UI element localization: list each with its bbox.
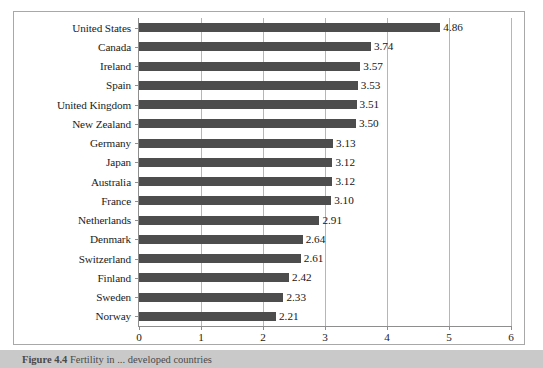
bar[interactable]: [139, 81, 358, 90]
bar[interactable]: [139, 312, 276, 321]
bar[interactable]: [139, 177, 332, 186]
bar-value-label: 3.51: [357, 99, 380, 110]
bar-value-label: 3.10: [331, 195, 354, 206]
category-label: United Kingdom: [18, 100, 131, 110]
bar[interactable]: [139, 23, 440, 32]
bar[interactable]: [139, 100, 357, 109]
bar-row[interactable]: 3.50: [139, 119, 511, 128]
category-label: Norway: [18, 311, 131, 321]
category-label: Australia: [18, 177, 131, 187]
bar-row[interactable]: 3.51: [139, 100, 511, 109]
bar[interactable]: [139, 158, 332, 167]
category-label: Canada: [18, 42, 131, 52]
x-tick-label: 0: [136, 331, 142, 343]
bar-row[interactable]: 3.10: [139, 196, 511, 205]
plot-area: 01234564.863.743.573.533.513.503.133.123…: [138, 18, 511, 327]
category-label: France: [18, 196, 131, 206]
x-tickmark: [325, 326, 326, 330]
category-label: Germany: [18, 138, 131, 148]
x-tick-label: 5: [446, 331, 452, 343]
category-label: Netherlands: [18, 215, 131, 225]
bar[interactable]: [139, 119, 356, 128]
x-tick-label: 6: [508, 331, 514, 343]
bar-chart: United StatesCanadaIrelandSpainUnited Ki…: [14, 12, 526, 346]
category-label: Spain: [18, 80, 131, 90]
bar-value-label: 3.12: [332, 157, 355, 168]
bar[interactable]: [139, 293, 283, 302]
category-axis-labels: United StatesCanadaIrelandSpainUnited Ki…: [18, 18, 131, 330]
bar-row[interactable]: 4.86: [139, 23, 511, 32]
bar-row[interactable]: 3.74: [139, 42, 511, 51]
bar-value-label: 4.86: [440, 22, 463, 33]
caption-body: Fertility in ... developed countries: [70, 354, 212, 365]
bar[interactable]: [139, 196, 331, 205]
x-tickmark: [201, 326, 202, 330]
x-tick-label: 1: [198, 331, 204, 343]
bar-row[interactable]: 3.57: [139, 62, 511, 71]
x-gridline: [511, 18, 512, 326]
category-label: Ireland: [18, 61, 131, 71]
x-tickmark: [139, 326, 140, 330]
bar-row[interactable]: 3.12: [139, 158, 511, 167]
figure-frame: United StatesCanadaIrelandSpainUnited Ki…: [13, 11, 525, 345]
bar[interactable]: [139, 273, 289, 282]
bar[interactable]: [139, 235, 303, 244]
bar-row[interactable]: 2.91: [139, 216, 511, 225]
category-label: Finland: [18, 273, 131, 283]
x-tickmark: [263, 326, 264, 330]
bar-row[interactable]: 2.21: [139, 312, 511, 321]
figure-caption: Figure 4.4 Fertility in ... developed co…: [22, 354, 212, 365]
bar-row[interactable]: 2.33: [139, 293, 511, 302]
bar-row[interactable]: 2.42: [139, 273, 511, 282]
x-tickmark: [449, 326, 450, 330]
x-tickmark: [387, 326, 388, 330]
category-label: New Zealand: [18, 119, 131, 129]
caption-number: Figure 4.4: [22, 354, 70, 365]
x-tick-label: 2: [260, 331, 266, 343]
bar-row[interactable]: 2.61: [139, 254, 511, 263]
bar-value-label: 2.64: [303, 234, 326, 245]
bar[interactable]: [139, 216, 319, 225]
bar-row[interactable]: 3.12: [139, 177, 511, 186]
category-label: Denmark: [18, 234, 131, 244]
bar[interactable]: [139, 254, 301, 263]
bar-value-label: 2.21: [276, 311, 299, 322]
bar-value-label: 3.74: [371, 41, 394, 52]
bar-row[interactable]: 3.13: [139, 139, 511, 148]
bar-value-label: 3.13: [333, 138, 356, 149]
category-label: Sweden: [18, 292, 131, 302]
bar-value-label: 2.61: [301, 253, 324, 264]
x-tickmark: [511, 326, 512, 330]
x-tick-label: 4: [384, 331, 390, 343]
bar-value-label: 3.50: [356, 118, 379, 129]
bar[interactable]: [139, 42, 371, 51]
bar-value-label: 2.91: [319, 215, 342, 226]
bar-value-label: 3.53: [358, 80, 381, 91]
category-label: Switzerland: [18, 254, 131, 264]
category-label: United States: [18, 23, 131, 33]
bar[interactable]: [139, 62, 360, 71]
bar-value-label: 2.33: [283, 292, 306, 303]
bar[interactable]: [139, 139, 333, 148]
bar-row[interactable]: 3.53: [139, 81, 511, 90]
figure-caption-strip: Figure 4.4 Fertility in ... developed co…: [0, 350, 543, 368]
bar-row[interactable]: 2.64: [139, 235, 511, 244]
x-tick-label: 3: [322, 331, 328, 343]
bar-value-label: 2.42: [289, 272, 312, 283]
bar-value-label: 3.57: [360, 61, 383, 72]
bar-value-label: 3.12: [332, 176, 355, 187]
category-label: Japan: [18, 157, 131, 167]
